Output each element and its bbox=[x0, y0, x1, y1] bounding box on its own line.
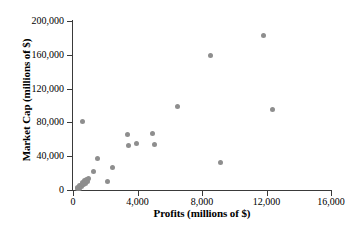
data-point bbox=[261, 33, 266, 38]
x-tick-label: 0 bbox=[43, 197, 103, 207]
data-point bbox=[125, 132, 130, 137]
data-point bbox=[110, 165, 115, 170]
y-tick-label: 40,000 bbox=[4, 151, 64, 161]
data-point bbox=[270, 107, 275, 112]
x-tick-label: 12,000 bbox=[237, 197, 297, 207]
data-point bbox=[86, 176, 91, 181]
y-axis-title: Market Cap (millions of $) bbox=[18, 10, 34, 190]
data-point bbox=[134, 141, 139, 146]
data-point bbox=[105, 179, 110, 184]
y-tick-label: 0 bbox=[4, 185, 64, 195]
y-tick-label: 120,000 bbox=[4, 84, 64, 94]
data-point bbox=[91, 169, 96, 174]
y-tick-label: 160,000 bbox=[4, 50, 64, 60]
x-tick-label: 4,000 bbox=[108, 197, 168, 207]
x-tick-label: 8,000 bbox=[172, 197, 232, 207]
data-point bbox=[150, 131, 155, 136]
data-point bbox=[175, 104, 180, 109]
y-tick-label: 80,000 bbox=[4, 117, 64, 127]
data-point bbox=[152, 142, 157, 147]
data-point bbox=[208, 53, 213, 58]
plot-area bbox=[73, 21, 331, 190]
y-tick-label: 200,000 bbox=[4, 16, 64, 26]
data-point bbox=[126, 143, 131, 148]
data-point bbox=[80, 119, 85, 124]
data-point bbox=[218, 160, 223, 165]
data-point bbox=[95, 156, 100, 161]
x-tick-label: 16,000 bbox=[301, 197, 347, 207]
scatter-chart: Market Cap (millions of $) 040,00080,000… bbox=[0, 0, 347, 228]
x-axis-title: Profits (millions of $) bbox=[73, 207, 331, 219]
